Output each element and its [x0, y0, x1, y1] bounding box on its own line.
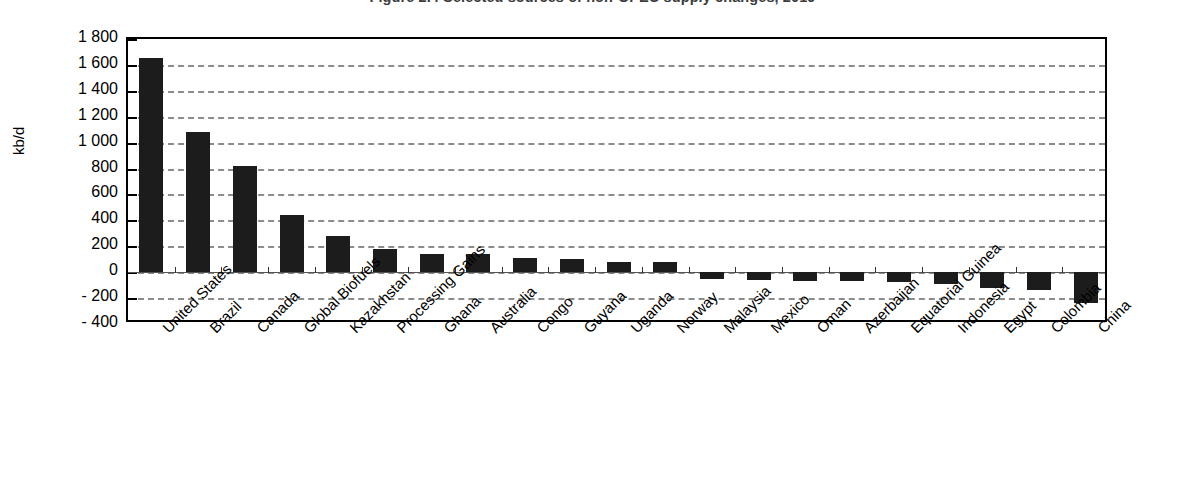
y-tick-mark	[128, 91, 137, 93]
bar	[139, 58, 163, 272]
y-tick-mark	[128, 298, 137, 300]
bar	[793, 272, 817, 280]
x-tick-mark	[829, 267, 830, 273]
y-tick-label: 600	[28, 184, 118, 200]
y-tick-label: 1 800	[28, 29, 118, 45]
x-tick-mark	[782, 267, 783, 273]
bar	[420, 254, 444, 272]
x-axis-label: Norway	[673, 324, 685, 336]
x-tick-mark	[502, 267, 503, 273]
y-tick-label: 800	[28, 159, 118, 175]
x-tick-mark	[735, 267, 736, 273]
y-tick-mark	[128, 143, 137, 145]
gridline	[128, 117, 1105, 119]
x-axis-category-labels: United StatesBrazilCanadaGlobal Biofuels…	[126, 324, 1107, 474]
bar	[653, 262, 677, 272]
x-axis-label: Malaysia	[720, 324, 732, 336]
x-axis-label: Congo	[533, 324, 545, 336]
bar	[186, 132, 210, 272]
bar	[1027, 272, 1051, 289]
gridline	[128, 246, 1105, 248]
y-tick-label: 1 200	[28, 107, 118, 123]
x-axis-label: Egypt	[1000, 324, 1012, 336]
y-tick-label: 200	[28, 236, 118, 252]
gridline	[128, 91, 1105, 93]
gridline	[128, 220, 1105, 222]
x-tick-mark	[1062, 267, 1063, 273]
x-axis-label: Processing Gains	[393, 324, 405, 336]
x-tick-mark	[268, 267, 269, 273]
gridline	[128, 143, 1105, 145]
x-axis-label: Australia	[486, 324, 498, 336]
bar	[233, 166, 257, 272]
x-axis-label: Brazil	[206, 324, 218, 336]
x-tick-mark	[408, 267, 409, 273]
y-tick-label: 400	[28, 210, 118, 226]
y-tick-label: 1 600	[28, 55, 118, 71]
x-tick-mark	[315, 267, 316, 273]
figure-container: Figure 2.4 Selected sources of non-OPEC …	[0, 0, 1185, 481]
gridline	[128, 169, 1105, 171]
x-tick-mark	[548, 267, 549, 273]
x-axis-label: Ghana	[440, 324, 452, 336]
y-tick-label: 1 000	[28, 133, 118, 149]
x-axis-label: Equatorial Guinea	[907, 324, 919, 336]
x-axis-label: Mexico	[767, 324, 779, 336]
y-tick-label: 1 400	[28, 81, 118, 97]
x-axis-label: China	[1094, 324, 1106, 336]
bar	[747, 272, 771, 280]
bar	[560, 259, 584, 273]
x-tick-mark	[1016, 267, 1017, 273]
y-axis-tick-labels: 1 8001 6001 4001 2001 0008006004002000- …	[28, 30, 118, 322]
x-tick-mark	[595, 267, 596, 273]
y-tick-mark	[128, 220, 137, 222]
x-tick-mark	[875, 267, 876, 273]
x-axis-label: Global Biofuels	[300, 324, 312, 336]
y-tick-mark	[128, 246, 137, 248]
x-axis-label: Oman	[813, 324, 825, 336]
x-tick-mark	[642, 267, 643, 273]
x-tick-mark	[922, 267, 923, 273]
y-tick-mark	[128, 117, 137, 119]
y-axis-title: kb/d	[10, 127, 27, 155]
bar	[513, 258, 537, 272]
y-tick-label: - 400	[28, 314, 118, 330]
y-tick-label: - 200	[28, 288, 118, 304]
x-axis-label: Guyana	[580, 324, 592, 336]
x-axis-label: Uganda	[627, 324, 639, 336]
x-tick-mark	[689, 267, 690, 273]
y-tick-mark	[128, 194, 137, 196]
x-axis-label: Canada	[253, 324, 265, 336]
y-tick-mark	[128, 169, 137, 171]
bar	[607, 262, 631, 272]
y-tick-mark	[128, 65, 137, 67]
bar	[280, 215, 304, 272]
gridline	[128, 194, 1105, 196]
bar	[326, 236, 350, 272]
x-axis-label: Colombia	[1047, 324, 1059, 336]
y-tick-mark	[128, 39, 137, 41]
bar	[700, 272, 724, 278]
x-axis-label: Azerbaijan	[860, 324, 872, 336]
x-axis-label: United States	[159, 324, 171, 336]
gridline	[128, 65, 1105, 67]
chart-title: Figure 2.4 Selected sources of non-OPEC …	[0, 0, 1185, 5]
x-axis-label: Kazakhstan	[346, 324, 358, 336]
bar	[840, 272, 864, 281]
x-axis-label: Indonesia	[954, 324, 966, 336]
y-tick-label: 0	[28, 262, 118, 278]
x-tick-mark	[175, 267, 176, 273]
